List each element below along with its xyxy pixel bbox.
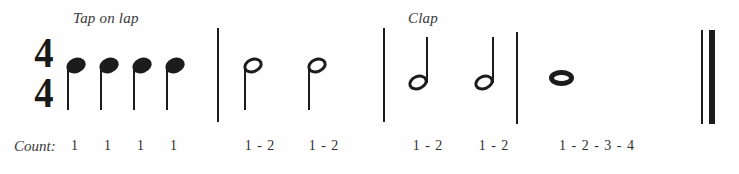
final-barline-thin <box>701 30 703 124</box>
barline-2 <box>383 28 385 122</box>
rhythm-notation-sheet: Tap on lap Clap 4 4 Count: 11111 - 21 - … <box>0 0 739 174</box>
time-signature-numerator: 4 <box>26 34 63 72</box>
count-cell-4: 1 <box>170 138 178 154</box>
count-cell-2: 1 <box>104 138 112 154</box>
half-note-2-stem <box>308 66 310 110</box>
count-cell-7: 1 - 2 <box>413 138 444 154</box>
whole-note-1-head <box>549 70 574 86</box>
final-barline-thick <box>709 30 715 124</box>
quarter-note-3-stem <box>133 66 135 110</box>
count-cell-6: 1 - 2 <box>309 138 340 154</box>
time-signature: 4 4 <box>24 36 64 114</box>
count-cell-5: 1 - 2 <box>245 138 276 154</box>
count-label: Count: <box>14 138 56 155</box>
count-row: Count: 11111 - 21 - 21 - 21 - 21 - 2 - 3… <box>0 138 739 164</box>
quarter-note-4-stem <box>166 66 168 110</box>
barline-3 <box>516 32 518 124</box>
quarter-note-2-stem <box>100 66 102 110</box>
half-note-3-stem <box>426 37 428 83</box>
instruction-clap: Clap <box>408 10 438 27</box>
instruction-tap-on-lap: Tap on lap <box>73 10 139 27</box>
count-cell-9: 1 - 2 - 3 - 4 <box>559 138 635 154</box>
time-signature-denominator: 4 <box>26 74 63 112</box>
count-cell-1: 1 <box>71 138 79 154</box>
quarter-note-1-stem <box>67 66 69 110</box>
count-cell-3: 1 <box>137 138 145 154</box>
barline-1 <box>217 28 219 122</box>
half-note-4-stem <box>492 37 494 83</box>
half-note-1-stem <box>244 66 246 110</box>
count-cell-8: 1 - 2 <box>479 138 510 154</box>
